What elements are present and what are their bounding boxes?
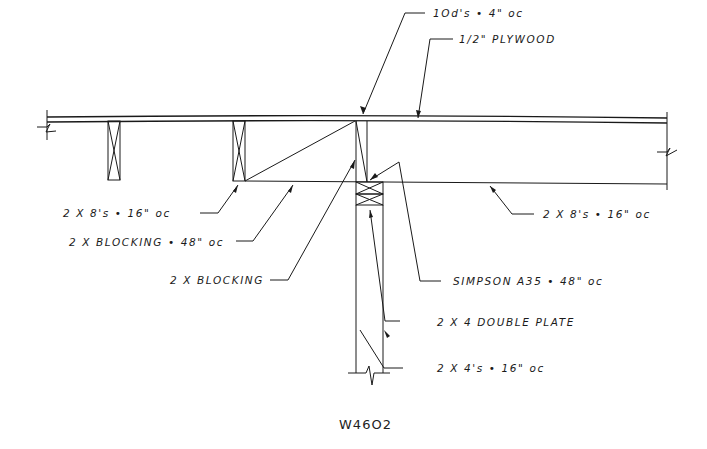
diagonal-brace <box>245 121 355 181</box>
wall-studs <box>348 205 390 385</box>
leader-lines <box>200 13 534 368</box>
double-top-plate <box>356 182 383 205</box>
callout-double-plate: 2 X 4 DOUBLE PLATE <box>437 316 575 328</box>
construction-detail-drawing: 1Od's • 4" oc 1/2" PLYWOOD 2 X 8's • 16"… <box>0 0 707 449</box>
callout-blocking-48: 2 X BLOCKING • 48" oc <box>69 236 224 248</box>
right-break-symbol <box>657 112 677 190</box>
blocking-middle <box>233 121 245 181</box>
rim-joist <box>356 121 367 182</box>
callout-joists-right: 2 X 8's • 16" oc <box>543 208 651 220</box>
callout-studs: 2 X 4's • 16" oc <box>437 362 545 374</box>
callout-simpson-a35: SIMPSON A35 • 48" oc <box>453 275 603 287</box>
left-break-symbol <box>37 110 56 140</box>
drawing-title: W46O2 <box>339 417 392 432</box>
callout-plywood: 1/2" PLYWOOD <box>459 33 556 45</box>
blocking-left <box>108 121 120 180</box>
callout-blocking: 2 X BLOCKING <box>170 274 264 286</box>
joist-bottom-edge <box>245 181 667 184</box>
arrowheads <box>233 106 496 338</box>
callout-nailing: 1Od's • 4" oc <box>433 7 524 19</box>
detail-linework <box>0 0 707 449</box>
callout-joists-left: 2 X 8's • 16" oc <box>63 207 171 219</box>
plywood-sheathing <box>47 116 667 123</box>
